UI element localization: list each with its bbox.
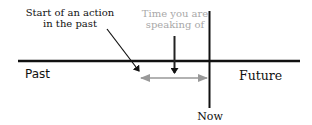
timeline-diagram: Start of an action in the past Time you … xyxy=(0,0,312,125)
time-speaking-of-line-2: speaking of xyxy=(132,19,218,30)
time-speaking-of-line-1: Time you are xyxy=(132,8,218,19)
now-label: Now xyxy=(194,111,226,123)
future-label: Future xyxy=(239,69,282,83)
start-pointer-arrow xyxy=(107,29,139,71)
time-speaking-of-label: Time you are speaking of xyxy=(132,8,218,30)
start-of-action-line-2: in the past xyxy=(23,18,117,29)
start-of-action-label: Start of an action in the past xyxy=(23,7,117,29)
past-label: Past xyxy=(25,68,50,81)
start-of-action-line-1: Start of an action xyxy=(23,7,117,18)
